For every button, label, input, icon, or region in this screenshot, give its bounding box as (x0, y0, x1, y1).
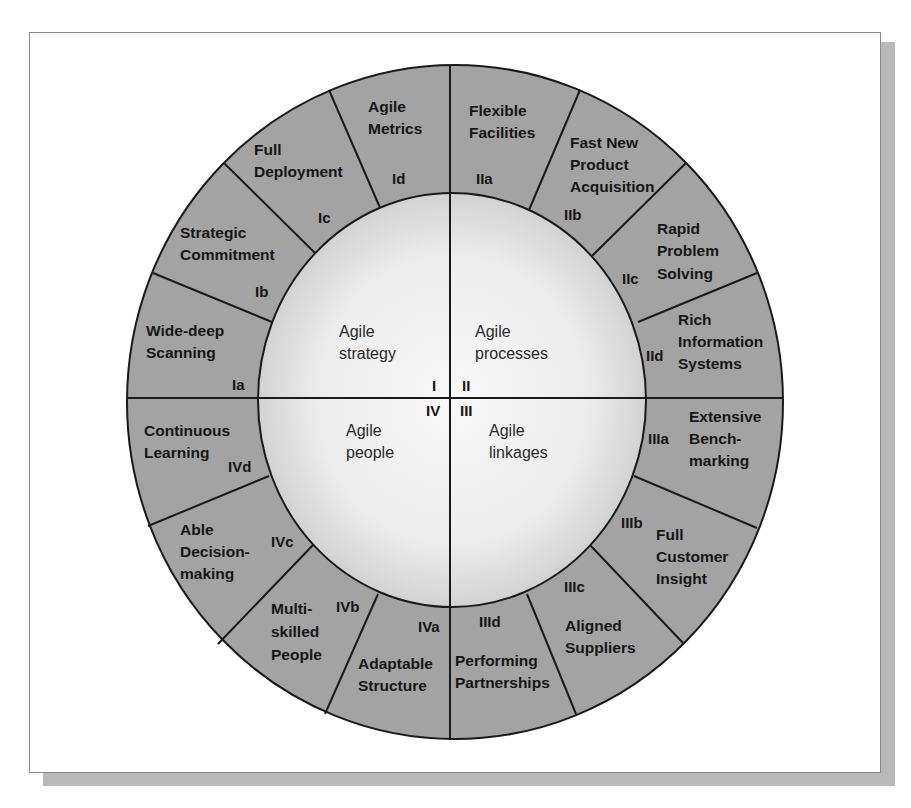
quadrant-label: strategy (339, 345, 396, 362)
segment-label: Partnerships (455, 674, 550, 691)
quadrant-label: people (346, 444, 394, 461)
quadrant-numeral: II (462, 377, 470, 394)
quadrant-numeral: I (432, 377, 436, 394)
segment-code: IId (646, 347, 664, 364)
segment-label: Continuous (144, 422, 230, 439)
quadrant-label: Agile (489, 422, 525, 439)
segment-label: Customer (656, 548, 728, 565)
segment-label: Facilities (469, 124, 535, 141)
segment-code: IIIb (621, 514, 643, 531)
segment-code: Ic (318, 209, 331, 226)
segment-code: IIIa (648, 430, 670, 447)
segment-code: IVa (418, 618, 440, 635)
segment-label: Strategic (180, 224, 247, 241)
segment-code: Ib (255, 283, 268, 300)
segment-label: skilled (271, 623, 319, 640)
segment-label: Bench- (689, 430, 742, 447)
quadrant-label: processes (475, 345, 548, 362)
segment-label: marking (689, 452, 749, 469)
quadrant-label: Agile (339, 323, 375, 340)
segment-label: Full (254, 141, 282, 158)
segment-label: Solving (657, 265, 713, 282)
segment-label: Rapid (657, 220, 700, 237)
segment-label: Able (180, 521, 214, 538)
segment-label: Scanning (146, 344, 216, 361)
segment-label: Product (570, 156, 629, 173)
segment-label: Metrics (368, 120, 422, 137)
segment-label: Agile (368, 98, 406, 115)
segment-label: Information (678, 333, 763, 350)
quadrant-numeral: IV (426, 402, 440, 419)
segment-label: Flexible (469, 102, 527, 119)
segment-label: Performing (455, 652, 538, 669)
segment-label: Adaptable (358, 655, 433, 672)
quadrant-label: Agile (475, 323, 511, 340)
segment-label: Extensive (689, 408, 762, 425)
segment-code: IVc (271, 533, 294, 550)
segment-code: IVd (228, 458, 251, 475)
segment-label: Multi- (271, 600, 312, 617)
segment-label: Aligned (565, 617, 622, 634)
segment-code: IVb (336, 598, 359, 615)
segment-code: IIId (479, 613, 501, 630)
segment-label: Acquisition (570, 178, 654, 195)
segment-code: IIb (564, 206, 582, 223)
quadrant-label: Agile (346, 422, 382, 439)
segment-label: Commitment (180, 246, 275, 263)
segment-code: Ia (232, 376, 245, 393)
inner-circle (258, 193, 646, 607)
segment-label: Fast New (570, 134, 639, 151)
segment-code: IIIc (564, 578, 585, 595)
segment-label: Rich (678, 311, 712, 328)
segment-label: People (271, 646, 322, 663)
segment-code: Id (392, 170, 405, 187)
segment-label: Suppliers (565, 639, 636, 656)
segment-label: Learning (144, 444, 209, 461)
segment-label: Deployment (254, 163, 343, 180)
segment-label: Systems (678, 355, 742, 372)
segment-label: Insight (656, 570, 707, 587)
quadrant-label: linkages (489, 444, 548, 461)
segment-label: Problem (657, 242, 719, 259)
segment-code: IIa (476, 170, 493, 187)
segment-label: Decision- (180, 543, 250, 560)
segment-label: making (180, 565, 234, 582)
agility-wheel: Agile strategy I Agile processes II Agil… (0, 0, 911, 808)
segment-code: IIc (622, 270, 639, 287)
segment-label: Wide-deep (146, 322, 224, 339)
quadrant-numeral: III (460, 402, 473, 419)
segment-label: Full (656, 526, 684, 543)
segment-label: Structure (358, 677, 427, 694)
